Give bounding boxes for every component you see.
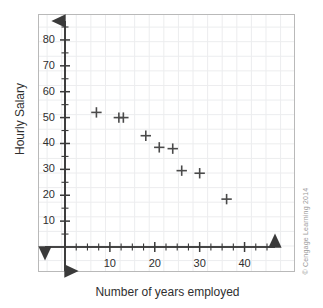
data-point-marker bbox=[177, 165, 187, 175]
x-tick-label: 20 bbox=[142, 258, 168, 269]
y-tick-label: 70 bbox=[33, 60, 55, 71]
x-tick-label: 10 bbox=[97, 258, 123, 269]
y-tick-label: 40 bbox=[33, 137, 55, 148]
y-tick-label: 20 bbox=[33, 189, 55, 200]
x-tick-label: 40 bbox=[232, 258, 258, 269]
data-point-marker bbox=[221, 194, 231, 204]
data-point-marker bbox=[118, 112, 128, 122]
scatter-plot-figure: 102030405060708010203040 Hourly Salary N… bbox=[0, 0, 323, 308]
data-point-markers bbox=[91, 107, 232, 204]
x-tick-label: 30 bbox=[187, 258, 213, 269]
data-point-marker bbox=[168, 143, 178, 153]
y-tick-label: 60 bbox=[33, 86, 55, 97]
y-tick-label: 30 bbox=[33, 163, 55, 174]
copyright-attribution: © Cengage Learning 2014 bbox=[302, 189, 309, 275]
data-point-marker bbox=[154, 142, 164, 152]
y-axis-label: Hourly Salary bbox=[13, 71, 27, 167]
data-point-marker bbox=[91, 107, 101, 117]
y-tick-label: 80 bbox=[33, 34, 55, 45]
y-tick-label: 10 bbox=[33, 215, 55, 226]
x-axis-label: Number of years employed bbox=[40, 285, 295, 299]
y-tick-label: 50 bbox=[33, 112, 55, 123]
data-point-marker bbox=[194, 168, 204, 178]
tick-marks bbox=[60, 27, 267, 252]
data-point-marker bbox=[141, 131, 151, 141]
